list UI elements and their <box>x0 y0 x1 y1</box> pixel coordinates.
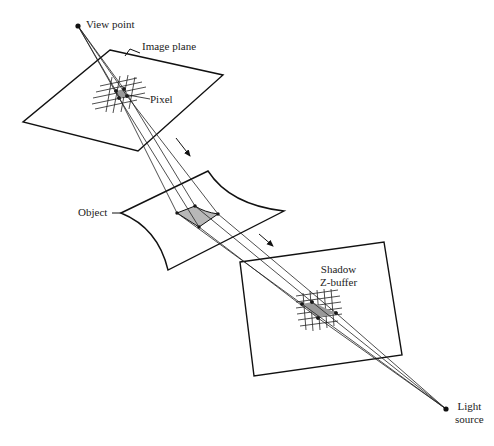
object-label: Object <box>78 206 107 219</box>
direction-arrow-1 <box>176 138 190 156</box>
object-surface <box>121 171 284 270</box>
image-plane-label: Image plane <box>142 40 196 53</box>
shadow-zbuffer-label: Shadow Z-buffer <box>320 263 357 288</box>
pixel-label: Pixel <box>150 93 173 106</box>
light-source-label-line2: source <box>455 413 484 426</box>
shadow-zbuffer-label-line2: Z-buffer <box>320 276 357 289</box>
direction-arrow-2 <box>259 234 273 246</box>
light-source-label-line1: Light <box>455 400 484 413</box>
diagram-canvas <box>0 0 494 446</box>
view-point-label: View point <box>86 18 135 31</box>
light-source-label: Light source <box>455 400 484 425</box>
light-source-marker <box>443 406 448 411</box>
view-point-marker <box>75 23 80 28</box>
shadow-zbuffer-label-line1: Shadow <box>320 263 357 276</box>
